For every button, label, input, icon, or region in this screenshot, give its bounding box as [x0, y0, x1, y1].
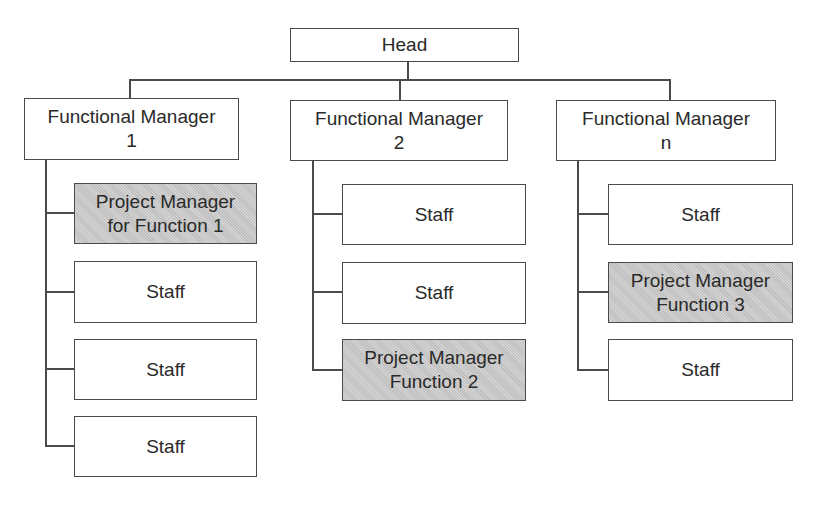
staff-box: Staff — [342, 184, 526, 245]
functional-manager-2-box: Functional Manager 2 — [290, 100, 508, 161]
fmn-spine — [577, 160, 579, 370]
fm1-branch — [45, 368, 74, 370]
staff-box: Staff — [608, 184, 793, 245]
fm2-spine — [312, 160, 314, 370]
fm1-drop — [129, 79, 131, 99]
staff-box: Staff — [74, 261, 257, 323]
fm2-branch — [312, 291, 342, 293]
fm2-branch — [312, 369, 342, 371]
fm1-branch — [45, 445, 74, 447]
fmn-branch — [577, 291, 608, 293]
fm2-branch — [312, 213, 342, 215]
fmn-drop — [669, 79, 671, 100]
staff-box: Staff — [608, 339, 793, 401]
head-connector — [407, 61, 409, 80]
head-box: Head — [290, 28, 519, 62]
fm2-drop — [399, 79, 401, 100]
functional-manager-1-box: Functional Manager 1 — [24, 98, 239, 160]
functional-manager-n-box: Functional Manager n — [556, 100, 776, 161]
staff-box: Staff — [74, 416, 257, 477]
fmn-branch — [577, 213, 608, 215]
fm1-spine — [45, 159, 47, 446]
fm1-branch — [45, 212, 74, 214]
staff-box: Staff — [74, 339, 257, 400]
fmn-branch — [577, 369, 608, 371]
fm1-branch — [45, 291, 74, 293]
project-manager-function-2-box: Project Manager Function 2 — [342, 339, 526, 401]
staff-box: Staff — [342, 262, 526, 324]
project-manager-function-3-box: Project Manager Function 3 — [608, 262, 793, 323]
project-manager-function-1-box: Project Manager for Function 1 — [74, 183, 257, 244]
